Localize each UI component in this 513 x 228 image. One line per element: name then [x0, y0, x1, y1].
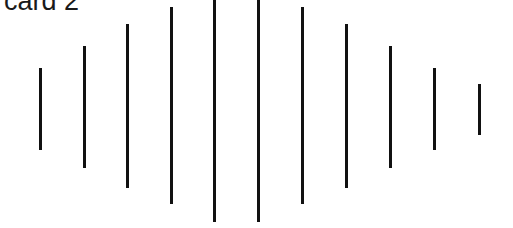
vertical-line-9 [389, 46, 392, 168]
vertical-line-4 [170, 7, 173, 204]
vertical-line-10 [433, 68, 436, 150]
vertical-line-stimulus [0, 0, 513, 228]
vertical-line-6 [257, 0, 260, 222]
vertical-line-3 [126, 24, 129, 188]
vertical-line-8 [345, 24, 348, 188]
vertical-line-11 [478, 84, 481, 135]
vertical-line-5 [213, 0, 216, 222]
vertical-line-7 [301, 7, 304, 204]
vertical-line-2 [83, 46, 86, 168]
vertical-line-1 [39, 68, 42, 150]
